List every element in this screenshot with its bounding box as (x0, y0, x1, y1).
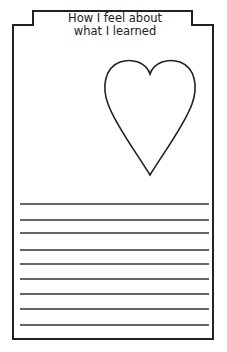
writing-lines (20, 204, 209, 325)
worksheet-frame (0, 0, 227, 352)
page-title: How I feel about what I learned (40, 12, 190, 38)
title-line-2: what I learned (40, 25, 190, 38)
heart-icon (105, 61, 195, 176)
frame-border (13, 11, 213, 339)
